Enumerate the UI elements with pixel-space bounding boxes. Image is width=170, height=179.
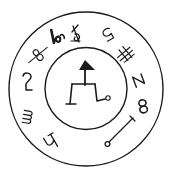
arrow-head-icon [79,60,95,70]
ring-glyph-two [23,73,32,90]
sigil-end-ring [106,96,110,100]
ring-glyphs [22,25,148,150]
ring-glyph-five [102,27,115,41]
ring-glyph-staff [105,116,135,146]
ring-glyph-z [133,74,145,87]
seal-diagram: Seal / sigil diagram [0,0,170,179]
ring-glyph-m [22,110,32,123]
ring-glyph-lo [51,28,65,43]
inner-circle [45,48,127,130]
outer-circle [9,12,163,166]
central-sigil [66,60,110,104]
ring-glyph-crossed-eight [25,43,51,68]
ring-glyph-eight [138,99,148,113]
ring-glyph-h [44,133,61,151]
ring-glyph-r [71,25,80,42]
sigil-right-leg [95,84,105,101]
sigil-left-leg [70,84,72,104]
